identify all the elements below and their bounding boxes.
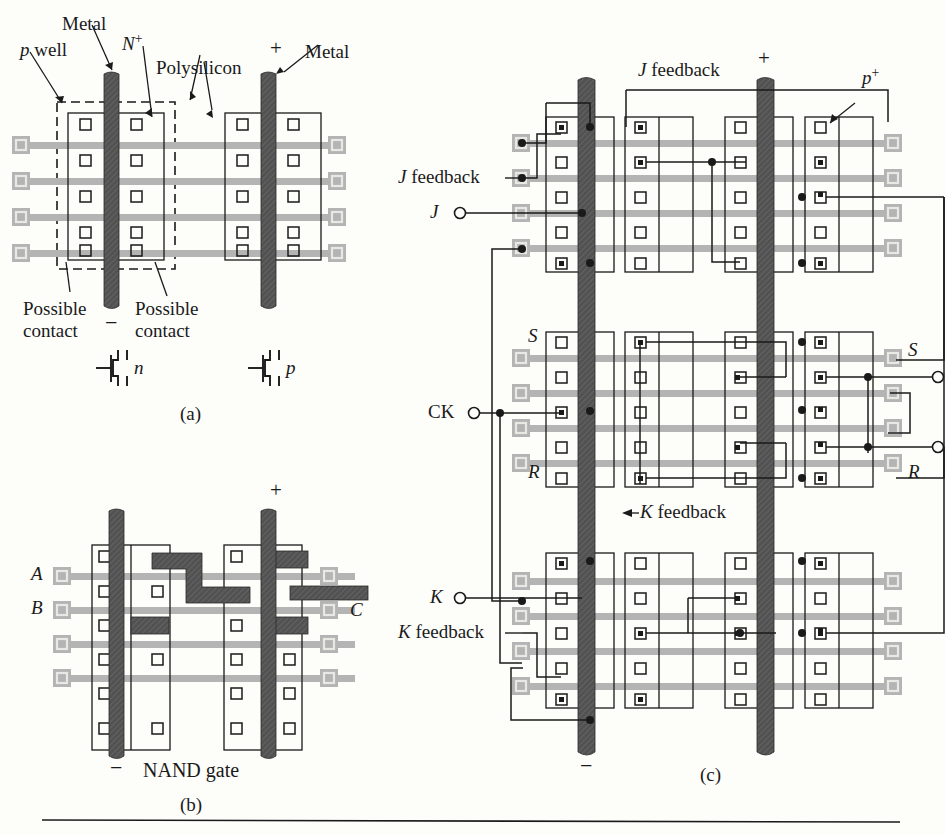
metal-rail-plus-a xyxy=(261,72,276,309)
feedback-word-left: feedback xyxy=(411,166,480,187)
poly-end-pads-c-right xyxy=(884,134,902,695)
transistor-symbol-p xyxy=(248,350,279,386)
pin-terminal-k xyxy=(455,593,466,604)
poly-end-pads-a-left xyxy=(12,136,30,262)
label-metal-left-a: Metal xyxy=(62,14,106,33)
label-minus-rail-c: − xyxy=(580,755,592,777)
arrowhead-p-plus xyxy=(830,114,838,123)
j-italic-left: J xyxy=(398,166,406,187)
arrowhead-k-feedback-mid xyxy=(622,509,632,517)
figure-cmos-gate-array: Metal p well N+ Polysilicon + Metal − Po… xyxy=(0,0,945,835)
label-transistor-n: n xyxy=(134,358,144,377)
label-pin-j-c: J xyxy=(430,202,438,221)
label-k-feedback-left-c: K feedback xyxy=(398,622,484,641)
k-italic-mid: K xyxy=(640,501,653,522)
caption-b: (b) xyxy=(180,795,202,814)
metal-rail-minus-a xyxy=(104,72,119,309)
p-plus-sup: + xyxy=(872,65,880,80)
label-possible-contact-right-a: Possible contact xyxy=(135,298,198,342)
metal-personalize-b-2 xyxy=(131,617,169,634)
polysilicon-strips-c xyxy=(513,140,893,690)
label-pin-ck-c: CK xyxy=(428,402,454,421)
n-plus-letter: N xyxy=(122,33,135,54)
panel-c-layout xyxy=(455,78,945,756)
label-node-r-right-c: R xyxy=(908,462,920,481)
pcl1: Possible xyxy=(23,298,86,320)
pin-terminal-q xyxy=(933,372,944,383)
label-j-feedback-top-c: J feedback xyxy=(638,60,720,79)
pcl2: contact xyxy=(23,320,86,342)
pin-terminal-j xyxy=(455,208,466,219)
label-node-s-left-c: S xyxy=(528,326,538,345)
label-output-c-b: C xyxy=(350,600,363,619)
pin-leads-c xyxy=(465,213,522,598)
metal-rail-minus-c xyxy=(578,78,595,756)
label-plus-rail-b: + xyxy=(270,480,282,501)
caption-a: (a) xyxy=(180,404,201,423)
pin-terminal-ck xyxy=(469,408,480,419)
label-transistor-p: p xyxy=(286,358,296,377)
layout-drawing xyxy=(0,0,945,835)
label-j-feedback-left-c: J feedback xyxy=(398,167,480,186)
poly-end-pads-b-right xyxy=(320,567,338,687)
label-nand-gate-title: NAND gate xyxy=(143,760,239,780)
label-minus-rail-b: − xyxy=(110,757,122,779)
k-italic-left: K xyxy=(398,621,411,642)
pcr2: contact xyxy=(135,320,198,342)
label-polysilicon-a: Polysilicon xyxy=(156,58,242,77)
label-node-r-left-c: R xyxy=(528,462,540,481)
p-plus-letter: p xyxy=(862,67,872,88)
feedback-word-mid: feedback xyxy=(657,501,726,522)
label-pin-k-c: K xyxy=(430,587,443,606)
poly-end-pads-c-left xyxy=(512,134,530,695)
pin-terminals-c xyxy=(455,208,944,604)
metal-output-c-b xyxy=(290,586,368,600)
label-input-b-b: B xyxy=(31,598,43,617)
label-node-s-right-c: S xyxy=(908,340,918,359)
metal-rail-plus-b xyxy=(261,509,276,759)
label-possible-contact-left-a: Possible contact xyxy=(23,298,86,342)
metal-rail-plus-c xyxy=(757,78,774,756)
wiring-c xyxy=(492,90,944,720)
metal-rail-minus-b xyxy=(109,509,124,759)
pin-terminal-qbar xyxy=(933,442,944,453)
pcr1: Possible xyxy=(135,298,198,320)
n-plus-sup: + xyxy=(135,31,143,46)
p-well-word: well xyxy=(34,39,67,60)
feedback-word-top: feedback xyxy=(651,59,720,80)
label-plus-rail-a: + xyxy=(270,38,282,59)
label-k-feedback-mid-c: K feedback xyxy=(640,502,726,521)
label-p-plus-c: p+ xyxy=(862,66,879,87)
transistor-symbol-n xyxy=(96,350,127,386)
poly-end-pads-b-left xyxy=(53,567,71,687)
label-metal-right-a: Metal xyxy=(305,42,349,61)
figure-bottom-rule xyxy=(42,820,900,822)
p-well-italic: p xyxy=(20,39,30,60)
feedback-word-left: feedback xyxy=(415,621,484,642)
label-plus-rail-c: + xyxy=(758,48,770,69)
poly-end-pads-a-right xyxy=(328,136,346,262)
j-italic-top: J xyxy=(638,59,646,80)
label-minus-rail-a: − xyxy=(105,312,117,334)
label-n-plus-a: N+ xyxy=(122,32,142,53)
caption-c: (c) xyxy=(700,765,721,784)
label-p-well-a: p well xyxy=(20,40,67,59)
label-input-a-b: A xyxy=(31,564,43,583)
